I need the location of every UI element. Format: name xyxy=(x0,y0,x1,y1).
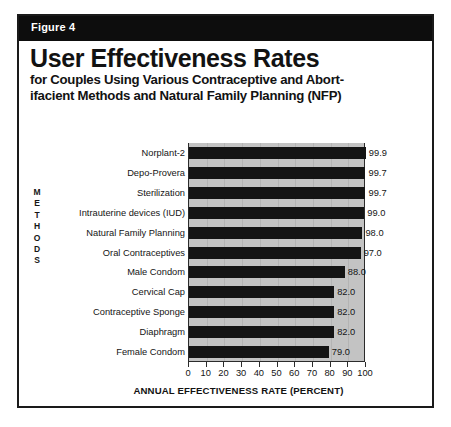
y-axis-category-label: Intrauterine devices (IUD) xyxy=(45,208,185,218)
y-axis-title-letter: T xyxy=(34,210,39,221)
title-block: User Effectiveness Rates for Couples Usi… xyxy=(30,45,424,103)
y-axis-title-letter: O xyxy=(34,233,41,244)
x-axis-tick-label: 30 xyxy=(236,368,246,378)
bar-value-label: 99.7 xyxy=(368,188,386,198)
y-axis-title: METHODS xyxy=(30,187,44,267)
x-axis-tick-label: 20 xyxy=(218,368,228,378)
subtitle-line-2: ifacient Methods and Natural Family Plan… xyxy=(30,88,424,104)
bar xyxy=(189,147,366,159)
bar-value-label: 97.0 xyxy=(364,248,382,258)
bar xyxy=(189,227,362,239)
y-axis-title-letter: M xyxy=(33,187,40,198)
x-axis-tick-mark xyxy=(365,362,366,367)
x-axis-tick-mark xyxy=(294,362,295,367)
figure-card: Figure 4 User Effectiveness Rates for Co… xyxy=(17,14,434,408)
y-axis-category-label: Oral Contraceptives xyxy=(45,248,185,258)
y-axis-category-label: Contraceptive Sponge xyxy=(45,307,185,317)
x-axis-tick-mark xyxy=(312,362,313,367)
x-axis-tick-mark xyxy=(347,362,348,367)
y-axis-category-labels: Norplant-2Depo-ProveraSterilizationIntra… xyxy=(45,143,185,362)
bar xyxy=(189,207,364,219)
bar xyxy=(189,306,334,318)
x-axis-tick-mark xyxy=(241,362,242,367)
figure-number-label: Figure 4 xyxy=(31,21,75,33)
chart-region: METHODS Norplant-2Depo-ProveraSterilizat… xyxy=(19,124,432,408)
x-axis-tick-label: 40 xyxy=(254,368,264,378)
y-axis-title-letter: S xyxy=(34,255,40,266)
bar xyxy=(189,167,365,179)
y-axis-title-letter: H xyxy=(34,221,40,232)
y-axis-title-letter: D xyxy=(34,244,40,255)
bar-value-label: 98.0 xyxy=(365,228,383,238)
y-axis-category-label: Diaphragm xyxy=(45,327,185,337)
x-axis-tick-label: 90 xyxy=(342,368,352,378)
bar-value-label: 99.9 xyxy=(369,148,387,158)
subtitle-line-1: for Couples Using Various Contraceptive … xyxy=(30,72,424,88)
x-axis-tick-mark xyxy=(223,362,224,367)
plot-area xyxy=(188,143,365,362)
page-title: User Effectiveness Rates xyxy=(30,45,424,72)
bar xyxy=(189,187,365,199)
bar xyxy=(189,346,329,358)
bar xyxy=(189,247,361,259)
figure-header-band: Figure 4 xyxy=(19,16,432,41)
x-axis-tick-label: 60 xyxy=(289,368,299,378)
x-axis-tick-mark xyxy=(206,362,207,367)
x-axis-tick-label: 0 xyxy=(185,368,190,378)
y-axis-category-label: Natural Family Planning xyxy=(45,228,185,238)
x-axis-tick-label: 80 xyxy=(324,368,334,378)
x-axis-tick-label: 70 xyxy=(307,368,317,378)
x-axis-tick-mark xyxy=(188,362,189,367)
y-axis-category-label: Cervical Cap xyxy=(45,287,185,297)
bar-value-label: 99.0 xyxy=(367,208,385,218)
y-axis-category-label: Sterilization xyxy=(45,188,185,198)
x-axis-title: ANNUAL EFFECTIVENESS RATE (PERCENT) xyxy=(19,385,432,396)
y-axis-category-label: Male Condom xyxy=(45,267,185,277)
x-axis-tick-mark xyxy=(259,362,260,367)
y-axis-title-letter: E xyxy=(34,198,40,209)
bar-value-label: 99.7 xyxy=(368,168,386,178)
x-axis: 0102030405060708090100 xyxy=(188,362,365,380)
x-axis-tick-mark xyxy=(277,362,278,367)
y-axis-category-label: Depo-Provera xyxy=(45,168,185,178)
bar xyxy=(189,326,334,338)
x-axis-tick-label: 50 xyxy=(271,368,281,378)
x-axis-tick-label: 100 xyxy=(357,368,373,378)
bar xyxy=(189,286,334,298)
x-axis-tick-mark xyxy=(330,362,331,367)
y-axis-category-label: Female Condom xyxy=(45,347,185,357)
bar xyxy=(189,266,345,278)
x-axis-tick-label: 10 xyxy=(201,368,211,378)
y-axis-category-label: Norplant-2 xyxy=(45,148,185,158)
